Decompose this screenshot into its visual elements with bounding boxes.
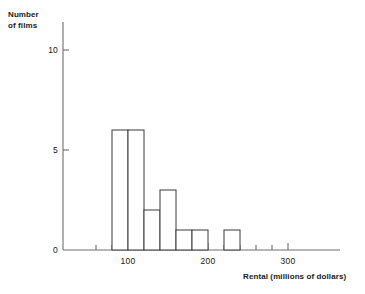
plot-area — [0, 0, 365, 294]
histogram-bar — [144, 210, 160, 250]
histogram-chart: Number of films Rental (millions of doll… — [0, 0, 365, 294]
histogram-bar — [192, 230, 208, 250]
bars-group — [112, 130, 240, 250]
axis-lines — [63, 22, 340, 250]
histogram-bar — [128, 130, 144, 250]
histogram-bar — [160, 190, 176, 250]
histogram-bar — [224, 230, 240, 250]
histogram-bar — [112, 130, 128, 250]
histogram-bar — [176, 230, 192, 250]
